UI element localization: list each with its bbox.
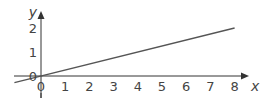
x-tick-label: 2 — [85, 79, 93, 94]
x-tick-label: 7 — [206, 79, 214, 94]
x-axis-arrow-icon — [241, 73, 249, 80]
series-line-0 — [14, 28, 234, 83]
y-tick-label: 0 — [29, 69, 37, 84]
y-axis-arrow-icon — [38, 11, 45, 19]
line-chart: 012345678012xy — [0, 0, 265, 103]
x-tick-label: 0 — [37, 79, 45, 94]
x-tick-label: 6 — [182, 79, 190, 94]
x-axis-label: x — [250, 78, 260, 94]
x-tick-label: 1 — [61, 79, 69, 94]
x-tick-label: 5 — [158, 79, 166, 94]
y-tick-label: 1 — [29, 45, 37, 60]
tick-labels: 012345678012xy — [28, 4, 260, 94]
x-tick-label: 8 — [230, 79, 238, 94]
y-axis-label: y — [28, 4, 38, 20]
chart-plot-area: 012345678012xy — [0, 0, 265, 103]
y-tick-label: 2 — [29, 21, 37, 36]
series-group — [14, 28, 234, 83]
x-tick-label: 4 — [134, 79, 142, 94]
x-tick-label: 3 — [109, 79, 117, 94]
